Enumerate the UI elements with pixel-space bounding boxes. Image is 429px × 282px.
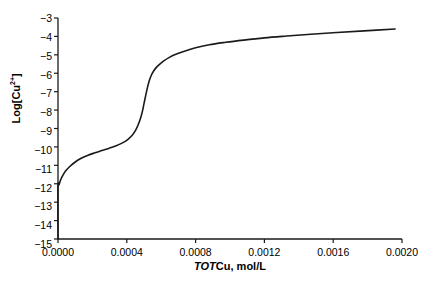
- x-tick-label: 0.0020: [372, 246, 429, 258]
- x-axis-title-italic-prefix: TOT: [194, 260, 216, 272]
- x-axis-title-rest: Cu, mol/L: [216, 260, 266, 272]
- x-tick-label: 0.0016: [303, 246, 363, 258]
- x-axis-tick-labels: 0.0000 0.0004 0.0008 0.0012 0.0016 0.002…: [0, 0, 429, 282]
- chart-figure: Log[Cu2+] −3 −4 −5 −6 −7 −8 −9 −10 −11 −…: [0, 0, 429, 282]
- x-tick-label: 0.0008: [166, 246, 226, 258]
- x-tick-label: 0.0012: [234, 246, 294, 258]
- x-tick-label: 0.0004: [97, 246, 157, 258]
- x-axis-title: TOTCu, mol/L: [58, 260, 402, 272]
- x-tick-label: 0.0000: [28, 246, 88, 258]
